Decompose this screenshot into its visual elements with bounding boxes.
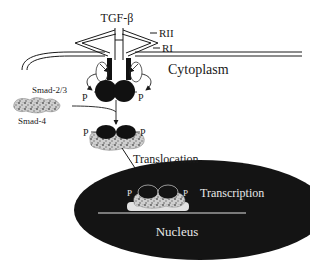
label-nucleus: Nucleus: [156, 224, 199, 239]
smad-4-protein: [14, 98, 60, 113]
label-rii: RII: [159, 27, 174, 39]
cell-membrane: [22, 52, 302, 70]
label-nuclear-phospho-right: P: [183, 188, 188, 198]
label-smad-23: Smad-2/3: [32, 85, 67, 95]
label-ri: RI: [162, 42, 173, 54]
label-translocation: Translocation: [133, 152, 199, 166]
receptor-complex: [75, 28, 158, 90]
label-tgf-beta: TGF-β: [101, 11, 134, 25]
label-cytoplasm: Cytoplasm: [168, 62, 229, 77]
label-smad-4: Smad-4: [18, 116, 46, 126]
label-complex-phospho-left: P: [83, 127, 89, 138]
smad-23-pair: [94, 80, 137, 102]
label-transcription: Transcription: [200, 186, 264, 200]
label-complex-phospho-right: P: [140, 127, 146, 138]
association-arrow: [72, 106, 116, 124]
cytoplasmic-smad-complex: [90, 125, 144, 150]
label-phospho-right: P: [138, 92, 144, 103]
label-nuclear-phospho-left: P: [127, 188, 132, 198]
tgf-beta-pathway-diagram: TGF-β RII RI Cytoplasm Smad-2/3 P P Smad…: [0, 0, 310, 267]
nucleus: [74, 160, 310, 260]
label-phospho-left: P: [82, 92, 88, 103]
